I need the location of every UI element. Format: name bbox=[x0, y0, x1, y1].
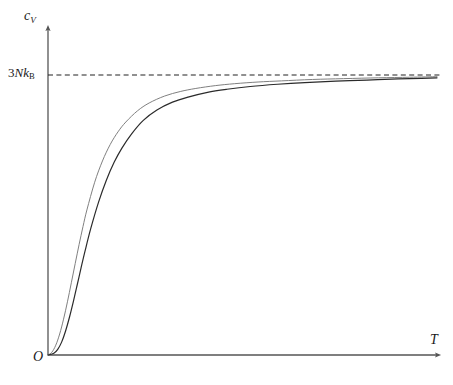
plot-area bbox=[0, 0, 453, 385]
asymptote-label: 3NkB bbox=[8, 66, 35, 81]
curve-debye bbox=[48, 77, 437, 355]
x-axis-label: T bbox=[430, 333, 438, 347]
origin-label: O bbox=[33, 350, 43, 364]
curve-einstein bbox=[48, 78, 437, 355]
heat-capacity-figure: cV 3NkB O T bbox=[0, 0, 453, 385]
y-axis-label: cV bbox=[24, 9, 36, 25]
